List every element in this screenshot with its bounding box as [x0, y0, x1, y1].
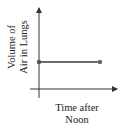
svg-text:Volume of: Volume of	[6, 25, 17, 69]
end-point-marker	[98, 60, 102, 64]
y-axis-label: Volume of Air in Lungs	[6, 20, 29, 74]
start-point-marker	[37, 60, 41, 64]
svg-text:Noon: Noon	[65, 114, 89, 125]
svg-text:Air in Lungs: Air in Lungs	[18, 20, 29, 74]
x-axis-label: Time after Noon	[55, 102, 99, 125]
graph-figure: Volume of Air in Lungs Time after Noon	[0, 0, 119, 127]
chart-svg: Volume of Air in Lungs Time after Noon	[0, 0, 119, 127]
svg-text:Time after: Time after	[55, 102, 99, 113]
